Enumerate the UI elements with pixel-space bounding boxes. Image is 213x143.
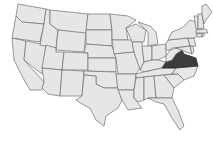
state-new-york xyxy=(168,20,198,40)
state-wyoming xyxy=(56,30,86,52)
state-colorado xyxy=(62,52,88,70)
state-rhode-island xyxy=(202,33,204,37)
state-indiana xyxy=(142,46,152,62)
state-kansas xyxy=(88,58,116,72)
state-maine xyxy=(202,4,212,24)
state-massachusetts xyxy=(196,29,208,33)
state-north-dakota xyxy=(86,14,112,30)
state-arkansas xyxy=(116,74,136,90)
states xyxy=(12,4,212,130)
state-iowa xyxy=(112,40,134,54)
state-florida xyxy=(148,98,184,130)
state-nebraska xyxy=(84,44,116,58)
state-arizona xyxy=(42,68,62,96)
state-south-dakota xyxy=(86,30,112,46)
state-mississippi xyxy=(134,77,144,102)
us-map xyxy=(0,0,213,143)
state-ohio xyxy=(152,44,166,60)
state-new-mexico xyxy=(60,70,84,96)
